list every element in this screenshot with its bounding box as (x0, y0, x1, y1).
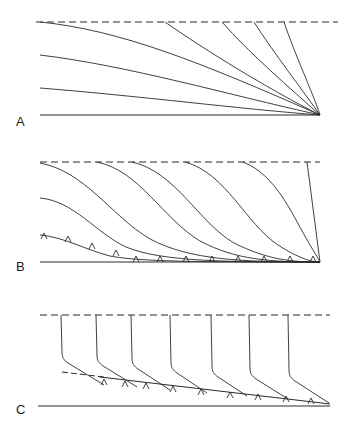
figure-background (0, 0, 354, 430)
panel-c-label: C (16, 402, 25, 417)
figure-canvas: A B (0, 0, 354, 430)
panel-b-label: B (16, 259, 25, 274)
panel-a-label: A (16, 114, 25, 129)
